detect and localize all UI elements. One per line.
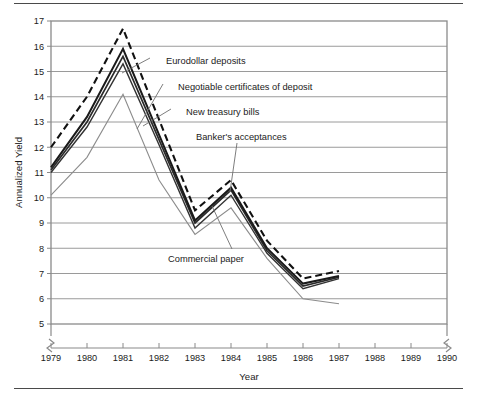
x-axis-tick-label: 1986 [293,353,313,363]
x-axis-tick-label: 1979 [41,353,61,363]
annotation-leader-line [212,206,232,249]
x-axis-tick-label: 1988 [365,353,385,363]
chart-area: 5678910111213141516171979198019811982198… [0,0,477,400]
y-axis-tick-label: 14 [34,92,44,102]
x-axis-tick-label: 1990 [437,353,457,363]
y-axis-tick-label: 12 [34,143,44,153]
y-axis-tick-label: 15 [34,67,44,77]
x-axis-title: Year [239,371,259,382]
x-axis-tick-label: 1982 [149,353,169,363]
y-axis-tick-label: 8 [39,244,44,254]
y-axis-tick-label: 11 [34,168,44,178]
figure-container: 5678910111213141516171979198019811982198… [0,0,477,400]
y-axis-tick-label: 9 [39,218,44,228]
series-annotation-label: Banker's acceptances [196,132,287,142]
x-axis-tick-label: 1985 [257,353,277,363]
y-axis-tick-label: 17 [34,16,44,26]
y-axis-tick-label: 13 [34,117,44,127]
x-axis-tick-label: 1981 [113,353,133,363]
series-annotation-label: Commercial paper [168,254,244,264]
series-annotation-label: Eurodollar deposits [166,56,246,66]
series-annotation-label: New treasury bills [186,107,260,117]
y-axis-tick-label: 16 [34,42,44,52]
y-axis-tick-label: 5 [39,319,44,329]
y-axis-tick-label: 6 [39,294,44,304]
x-axis-tick-label: 1984 [221,353,241,363]
line-chart: 5678910111213141516171979198019811982198… [0,0,477,400]
y-axis-title: Annualized Yield [13,137,24,208]
x-axis-tick-label: 1980 [77,353,97,363]
y-axis-tick-label: 10 [34,193,44,203]
series-annotation-label: Negotiable certificates of deposit [178,82,313,92]
y-axis-tick-label: 7 [39,269,44,279]
x-axis-tick-label: 1983 [185,353,205,363]
x-axis-tick-label: 1989 [401,353,421,363]
x-axis-tick-label: 1987 [329,353,349,363]
